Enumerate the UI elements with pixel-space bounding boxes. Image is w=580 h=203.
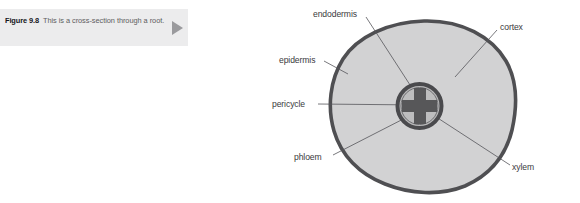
root-cross-section-diagram: endodermis cortex epidermis pericycle ph… [0, 0, 580, 203]
diagram-label-phloem: phloem [294, 152, 322, 162]
diagram-label-pericycle: pericycle [272, 99, 305, 109]
diagram-label-cortex: cortex [500, 22, 523, 32]
diagram-label-endodermis: endodermis [313, 9, 357, 19]
diagram-label-epidermis: epidermis [279, 55, 315, 65]
diagram-label-xylem: xylem [512, 162, 534, 172]
